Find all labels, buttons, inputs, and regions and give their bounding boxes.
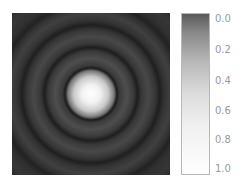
colorbar-tick-label: 1.0	[215, 164, 231, 174]
colorbar-tick-label: 0.2	[215, 45, 231, 55]
colorbar-tick-label: 0.6	[215, 106, 231, 116]
colorbar-tick-label: 0.4	[215, 76, 231, 86]
airy-pattern-image	[12, 13, 170, 175]
colorbar-tick-label: 0.8	[215, 135, 231, 145]
colorbar	[181, 13, 210, 175]
colorbar-tick-label: 0.0	[215, 14, 231, 24]
